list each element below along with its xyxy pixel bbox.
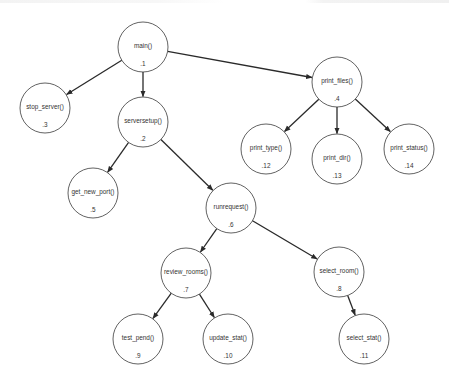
edge-arrow: [355, 99, 390, 132]
tree-node: print_files().4: [312, 57, 362, 107]
node-id-label: .14: [405, 162, 414, 169]
node-label: get_new_port(): [72, 188, 115, 196]
edge-arrow: [285, 99, 319, 131]
edge-arrow: [201, 229, 217, 252]
edge-arrow: [108, 142, 129, 172]
node-id-label: .11: [360, 352, 369, 359]
node-label: print_files(): [321, 77, 353, 85]
tree-node: stop_server().3: [20, 83, 70, 133]
tree-node: print_status().14: [384, 124, 434, 174]
edge-arrow: [153, 293, 171, 318]
edge-arrow: [253, 221, 318, 259]
node-label: review_rooms(): [164, 268, 208, 276]
node-id-label: .1: [140, 60, 146, 67]
node-id-label: .6: [228, 221, 234, 228]
node-label: print_type(): [250, 144, 282, 152]
node-id-label: .7: [183, 286, 189, 293]
node-label: stop_server(): [26, 103, 64, 111]
node-label: select_room(): [319, 267, 358, 275]
tree-node: print_dir().13: [312, 134, 362, 184]
node-label: test_pend(): [122, 334, 154, 342]
node-id-label: .13: [333, 172, 342, 179]
node-label: runrequest(): [214, 203, 249, 211]
tree-node: print_type().12: [241, 124, 291, 174]
node-id-label: .3: [42, 121, 48, 128]
tree-node: test_pend().9: [113, 314, 163, 364]
tree-node: select_stat().11: [339, 314, 389, 364]
node-label: main(): [134, 42, 152, 50]
node-id-label: .9: [135, 352, 141, 359]
tree-node: main().1: [118, 22, 168, 72]
tree-node: get_new_port().5: [68, 168, 118, 218]
node-id-label: .10: [224, 352, 233, 359]
edge-arrow: [161, 140, 213, 191]
call-tree-diagram: main().1serversetup().2stop_server().3pr…: [0, 0, 449, 383]
edge-arrow: [348, 295, 355, 315]
tree-node: review_rooms().7: [161, 248, 211, 298]
edge-arrow: [67, 60, 122, 94]
nodes-layer: main().1serversetup().2stop_server().3pr…: [20, 22, 434, 364]
node-label: print_dir(): [323, 154, 350, 162]
edge-arrow: [168, 51, 312, 77]
tree-node: serversetup().2: [118, 97, 168, 147]
edge-arrow: [199, 294, 214, 317]
node-id-label: .2: [140, 135, 146, 142]
tree-node: select_room().8: [314, 247, 364, 297]
node-label: update_stat(): [209, 334, 247, 342]
node-id-label: .4: [334, 95, 340, 102]
node-label: serversetup(): [124, 117, 162, 125]
node-label: print_status(): [390, 144, 427, 152]
node-id-label: .12: [262, 162, 271, 169]
node-id-label: .8: [336, 285, 342, 292]
node-id-label: .5: [90, 206, 96, 213]
tree-node: runrequest().6: [206, 183, 256, 233]
tree-node: update_stat().10: [203, 314, 253, 364]
node-label: select_stat(): [347, 334, 382, 342]
